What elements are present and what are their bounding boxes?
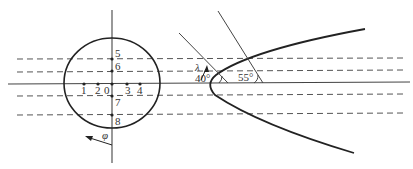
point-label-7: 7 xyxy=(115,96,121,108)
angle-label-55: 55° xyxy=(238,71,253,83)
point-label-0: 0 xyxy=(104,84,110,96)
point-label-1: 1 xyxy=(81,84,87,96)
lambda-label: λ xyxy=(194,61,200,73)
angle-arc-55 xyxy=(254,75,258,83)
point-label-3: 3 xyxy=(125,84,131,96)
dashed-line-2 xyxy=(17,70,405,72)
parabola-curve xyxy=(210,29,365,153)
dashed-line-1 xyxy=(17,58,405,59)
dashed-line-3 xyxy=(17,94,405,96)
point-label-6: 6 xyxy=(115,60,121,72)
dashed-line-4 xyxy=(17,113,405,115)
phi-label: φ xyxy=(102,129,108,141)
diagram-canvas: 1 2 0 3 4 5 6 7 8 φ 40° 55° λ xyxy=(0,0,413,169)
point-label-5: 5 xyxy=(115,47,121,59)
point-label-4: 4 xyxy=(137,84,143,96)
angle-arc-40 xyxy=(219,76,222,83)
point-label-8: 8 xyxy=(115,115,121,127)
phi-arrowhead-icon xyxy=(85,136,93,141)
angle-label-40: 40° xyxy=(195,72,210,84)
point-label-2: 2 xyxy=(95,84,101,96)
phi-arrow-line xyxy=(90,138,112,145)
lambda-arrowhead-icon xyxy=(204,65,209,72)
